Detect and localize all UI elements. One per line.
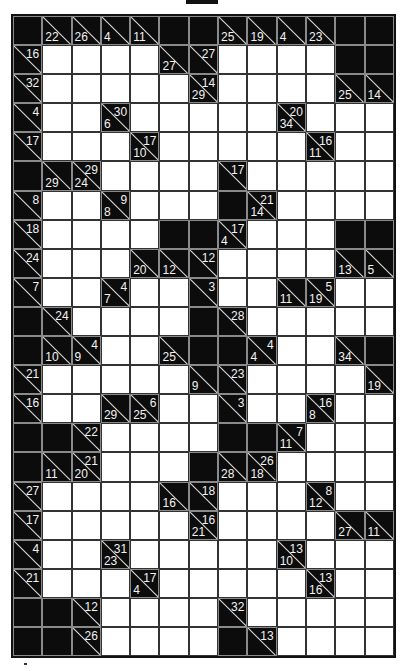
entry-cell[interactable] (72, 511, 101, 540)
entry-cell[interactable] (335, 103, 364, 132)
entry-cell[interactable] (101, 74, 130, 103)
entry-cell[interactable] (218, 540, 247, 569)
entry-cell[interactable] (277, 191, 306, 220)
entry-cell[interactable] (42, 394, 71, 423)
entry-cell[interactable] (306, 249, 335, 278)
entry-cell[interactable] (159, 132, 188, 161)
entry-cell[interactable] (189, 103, 218, 132)
entry-cell[interactable] (306, 423, 335, 452)
entry-cell[interactable] (306, 540, 335, 569)
entry-cell[interactable] (277, 132, 306, 161)
entry-cell[interactable] (277, 598, 306, 627)
entry-cell[interactable] (72, 569, 101, 598)
entry-cell[interactable] (306, 103, 335, 132)
entry-cell[interactable] (42, 74, 71, 103)
entry-cell[interactable] (130, 74, 159, 103)
entry-cell[interactable] (247, 132, 276, 161)
entry-cell[interactable] (130, 511, 159, 540)
entry-cell[interactable] (335, 423, 364, 452)
entry-cell[interactable] (101, 45, 130, 74)
entry-cell[interactable] (159, 103, 188, 132)
entry-cell[interactable] (42, 191, 71, 220)
entry-cell[interactable] (247, 161, 276, 190)
entry-cell[interactable] (101, 132, 130, 161)
entry-cell[interactable] (42, 278, 71, 307)
entry-cell[interactable] (277, 394, 306, 423)
entry-cell[interactable] (159, 161, 188, 190)
entry-cell[interactable] (72, 249, 101, 278)
entry-cell[interactable] (247, 482, 276, 511)
entry-cell[interactable] (277, 482, 306, 511)
entry-cell[interactable] (306, 307, 335, 336)
entry-cell[interactable] (247, 220, 276, 249)
entry-cell[interactable] (306, 598, 335, 627)
entry-cell[interactable] (130, 452, 159, 481)
entry-cell[interactable] (101, 220, 130, 249)
entry-cell[interactable] (72, 74, 101, 103)
entry-cell[interactable] (159, 540, 188, 569)
entry-cell[interactable] (365, 452, 394, 481)
entry-cell[interactable] (72, 394, 101, 423)
entry-cell[interactable] (365, 132, 394, 161)
entry-cell[interactable] (335, 132, 364, 161)
entry-cell[interactable] (335, 569, 364, 598)
entry-cell[interactable] (277, 336, 306, 365)
entry-cell[interactable] (277, 220, 306, 249)
entry-cell[interactable] (247, 511, 276, 540)
entry-cell[interactable] (189, 598, 218, 627)
entry-cell[interactable] (247, 249, 276, 278)
entry-cell[interactable] (130, 365, 159, 394)
entry-cell[interactable] (365, 278, 394, 307)
entry-cell[interactable] (130, 45, 159, 74)
entry-cell[interactable] (335, 161, 364, 190)
entry-cell[interactable] (130, 220, 159, 249)
entry-cell[interactable] (277, 627, 306, 656)
entry-cell[interactable] (130, 307, 159, 336)
entry-cell[interactable] (130, 278, 159, 307)
entry-cell[interactable] (277, 511, 306, 540)
entry-cell[interactable] (159, 191, 188, 220)
entry-cell[interactable] (247, 598, 276, 627)
entry-cell[interactable] (101, 598, 130, 627)
entry-cell[interactable] (218, 74, 247, 103)
entry-cell[interactable] (72, 103, 101, 132)
entry-cell[interactable] (218, 249, 247, 278)
entry-cell[interactable] (159, 627, 188, 656)
entry-cell[interactable] (277, 249, 306, 278)
entry-cell[interactable] (42, 482, 71, 511)
entry-cell[interactable] (130, 423, 159, 452)
entry-cell[interactable] (101, 423, 130, 452)
entry-cell[interactable] (42, 569, 71, 598)
entry-cell[interactable] (159, 365, 188, 394)
entry-cell[interactable] (130, 103, 159, 132)
entry-cell[interactable] (189, 627, 218, 656)
entry-cell[interactable] (130, 627, 159, 656)
entry-cell[interactable] (218, 482, 247, 511)
entry-cell[interactable] (189, 161, 218, 190)
entry-cell[interactable] (247, 365, 276, 394)
entry-cell[interactable] (218, 132, 247, 161)
entry-cell[interactable] (42, 365, 71, 394)
entry-cell[interactable] (218, 511, 247, 540)
entry-cell[interactable] (189, 423, 218, 452)
entry-cell[interactable] (306, 220, 335, 249)
entry-cell[interactable] (72, 365, 101, 394)
entry-cell[interactable] (189, 394, 218, 423)
entry-cell[interactable] (101, 569, 130, 598)
entry-cell[interactable] (189, 540, 218, 569)
entry-cell[interactable] (306, 336, 335, 365)
entry-cell[interactable] (335, 278, 364, 307)
entry-cell[interactable] (130, 598, 159, 627)
entry-cell[interactable] (101, 161, 130, 190)
entry-cell[interactable] (159, 394, 188, 423)
entry-cell[interactable] (247, 45, 276, 74)
entry-cell[interactable] (365, 482, 394, 511)
entry-cell[interactable] (159, 511, 188, 540)
entry-cell[interactable] (101, 249, 130, 278)
entry-cell[interactable] (335, 482, 364, 511)
entry-cell[interactable] (247, 74, 276, 103)
entry-cell[interactable] (159, 452, 188, 481)
entry-cell[interactable] (365, 627, 394, 656)
entry-cell[interactable] (189, 191, 218, 220)
entry-cell[interactable] (130, 336, 159, 365)
